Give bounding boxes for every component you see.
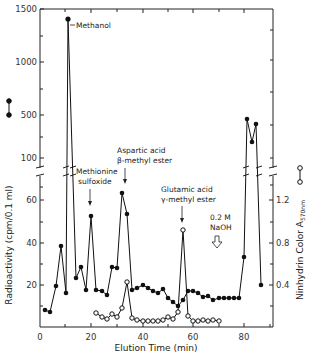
- x-axis-label: Elution Time (min): [115, 343, 198, 353]
- legend-ninhydrin-marker: [298, 166, 303, 185]
- x-tick-40: 40: [138, 332, 149, 342]
- y-right-axis-label: Ninhydrin Color A570nm: [295, 200, 306, 300]
- annotation-methanol-text: Methanol: [76, 21, 111, 30]
- y-right-axis-label-main: Ninhydrin Color A: [295, 220, 305, 300]
- annotation-aspartic-acid: Aspartic acid β-methyl ester: [117, 146, 173, 184]
- y-tick-100: 100: [21, 153, 37, 163]
- series-radioactivity: [43, 16, 264, 314]
- x-tick-labels: 0 20 40 60 80: [37, 332, 249, 342]
- y-left-axis-label: Radioactivity (cpm/0.1 ml): [4, 185, 14, 304]
- svg-text:Ninhydrin Color A570nm: Ninhydrin Color A570nm: [295, 200, 306, 300]
- x-tick-60: 60: [188, 332, 199, 342]
- y-tick-1500: 1500: [15, 4, 37, 14]
- annotation-glu-line1: Glutamic acid: [161, 185, 213, 194]
- y-tick-60: 60: [26, 195, 37, 205]
- annotation-glutamic-acid: Glutamic acid γ-methyl ester: [161, 185, 217, 223]
- annotation-naoh: 0.2 M NaOH: [210, 213, 232, 248]
- annotation-methionine-sulfoxide: Methionine sulfoxide: [76, 167, 118, 206]
- y-tick-20: 20: [26, 280, 37, 290]
- y-tick-40: 40: [26, 238, 37, 248]
- annotation-mso-line2: sulfoxide: [78, 177, 112, 186]
- annotation-asp-line2: β-methyl ester: [117, 156, 173, 165]
- annotation-glu-line2: γ-methyl ester: [161, 195, 217, 204]
- annotation-methanol: Methanol: [70, 21, 111, 30]
- x-tick-0: 0: [37, 332, 42, 342]
- y-right-tick-0.4: 0.4: [276, 280, 290, 290]
- y-left-tick-labels: 20 40 60 100 500 1000 1500: [15, 4, 37, 290]
- y-tick-500: 500: [21, 110, 37, 120]
- y-right-tick-1.2: 1.2: [276, 195, 290, 205]
- x-tick-80: 80: [239, 332, 250, 342]
- legend-radioactivity-marker: [7, 99, 12, 118]
- chart-canvas: 0 20 40 60 80 20 40 60 100 500 1000 1500…: [0, 0, 312, 353]
- annotation-naoh-line2: NaOH: [210, 223, 232, 232]
- arrow-down-icon: [123, 179, 127, 184]
- y-right-tick-labels: 0.4 0.8 1.2: [276, 195, 290, 290]
- x-tick-20: 20: [86, 332, 97, 342]
- y-tick-1000: 1000: [15, 57, 37, 67]
- arrow-down-icon: [88, 201, 92, 206]
- hollow-arrow-down-icon: [212, 236, 222, 248]
- annotation-mso-line1: Methionine: [76, 167, 118, 176]
- y-right-axis-label-sub: 570nm: [299, 200, 306, 221]
- arrow-down-icon: [180, 218, 184, 223]
- y-right-tick-0.8: 0.8: [276, 238, 290, 248]
- annotation-naoh-line1: 0.2 M: [210, 213, 231, 222]
- series-ninhydrin: [94, 228, 221, 323]
- annotation-asp-line1: Aspartic acid: [117, 146, 166, 155]
